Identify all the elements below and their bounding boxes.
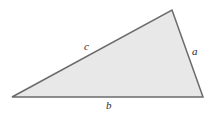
side-label-b: b (106, 100, 112, 111)
side-label-a: a (192, 46, 198, 57)
triangle-figure: c a b (0, 0, 213, 115)
triangle-svg (0, 0, 213, 115)
triangle-shape (12, 10, 203, 97)
side-label-c: c (84, 41, 89, 52)
